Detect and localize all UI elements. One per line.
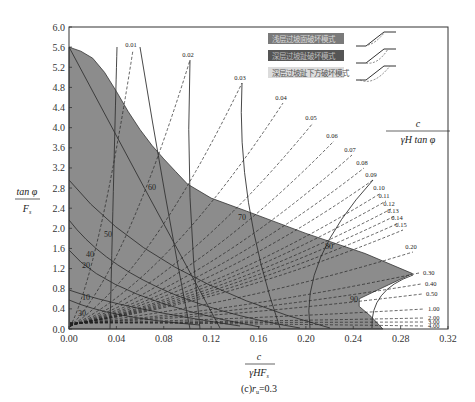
contour-value-label: 0.20 [405, 243, 416, 250]
legend-item: 浅层过坡面破坏模式 [268, 32, 396, 46]
angle-label: 30 [78, 309, 86, 318]
x-tick-label: 0.24 [345, 333, 363, 344]
contour-value-label: 0.13 [387, 207, 398, 214]
contour-value-label: 0.02 [182, 51, 193, 58]
contour-value-label: 0.15 [395, 221, 406, 228]
contour-value-label: 0.06 [326, 132, 338, 139]
contour-family-label: c γH tan φ [386, 118, 450, 145]
y-tick-label: 0.0 [53, 324, 66, 335]
svg-text:c: c [416, 118, 421, 129]
legend-label: 深层过坡趾破坏模式 [272, 51, 336, 61]
svg-text:c: c [257, 351, 262, 362]
contour-value-label: 0.11 [378, 192, 389, 199]
contour-value-label: 0.14 [391, 214, 403, 221]
svg-text:γH tan φ: γH tan φ [401, 134, 436, 145]
svg-text:Fs: Fs [22, 203, 32, 215]
y-tick-label: 0.8 [53, 283, 66, 294]
contour-value-label: 0.05 [305, 114, 316, 121]
contour-value-label: 1.00 [428, 305, 439, 312]
x-tick-label: 0.04 [108, 333, 126, 344]
y-tick-label: 1.6 [53, 243, 66, 254]
contour-value-label: 0.30 [423, 269, 434, 276]
contour-value-label: 0.01 [125, 41, 136, 48]
angle-label: 50 [104, 230, 112, 239]
y-tick-label: 2.4 [53, 203, 66, 214]
slope-icon [356, 49, 396, 63]
y-tick-label: 0.4 [53, 303, 66, 314]
contour-value-label: 0.10 [373, 184, 384, 191]
contour-value-label: 0.03 [234, 74, 245, 81]
svg-text:tan φ: tan φ [17, 186, 38, 197]
angle-label: 70 [238, 213, 246, 222]
angle-label: 60 [148, 183, 156, 192]
x-tick-label: 0.20 [297, 333, 315, 344]
design-chart: 0.000.040.080.120.160.200.240.280.32 0.0… [0, 0, 475, 402]
angle-label: 80 [325, 242, 333, 251]
angle-label: 20 [82, 261, 90, 270]
contour-value-label: 0.40 [425, 280, 436, 287]
legend-label: 浅层过坡面破坏模式 [272, 34, 336, 44]
contour-value-label: 0.08 [356, 159, 367, 166]
x-tick-label: 0.08 [155, 333, 173, 344]
angle-label: 10 [82, 293, 90, 302]
y-tick-label: 2.0 [53, 223, 66, 234]
y-tick-label: 2.8 [53, 183, 66, 194]
contour-value-label: 0.07 [344, 146, 356, 153]
angle-label: 40 [86, 250, 94, 259]
slip-surface-icon [366, 49, 388, 63]
angle-label: 90 [350, 295, 358, 304]
y-tick-label: 5.6 [53, 42, 66, 53]
y-tick-label: 6.0 [53, 22, 66, 33]
contour-value-label: 0.09 [365, 171, 376, 178]
x-tick-label: 0.12 [202, 333, 220, 344]
x-tick-label: 0.16 [250, 333, 268, 344]
y-axis-label: tan φ Fs [15, 186, 40, 215]
legend: 浅层过坡面破坏模式深层过坡趾破坏模式深层过坡趾下方破坏模式 [268, 32, 396, 81]
x-tick-label: 0.28 [392, 333, 410, 344]
slip-surface-icon [360, 66, 390, 81]
y-tick-label: 3.2 [53, 162, 66, 173]
y-tick-label: 4.4 [53, 102, 66, 113]
slope-icon [356, 32, 396, 46]
y-tick-label: 4.0 [53, 122, 66, 133]
slope-icon [356, 66, 396, 80]
contour-value-label: 0.12 [383, 200, 394, 207]
figure-caption: (c)ru=0.3 [241, 383, 277, 395]
legend-item: 深层过坡趾下方破坏模式 [268, 66, 396, 81]
y-tick-label: 4.8 [53, 82, 66, 93]
x-tick-label: 0.00 [60, 333, 78, 344]
x-tick-label: 0.32 [439, 333, 457, 344]
contour-value-label: 4.00 [428, 322, 439, 329]
legend-item: 深层过坡趾破坏模式 [268, 49, 396, 63]
contour-value-label: 0.50 [426, 290, 437, 297]
legend-label: 深层过坡趾下方破坏模式 [272, 68, 350, 78]
x-axis-label: c γHFs [245, 351, 275, 379]
contour-value-label: 0.04 [275, 94, 287, 101]
y-tick-label: 3.6 [53, 142, 66, 153]
y-tick-label: 1.2 [53, 263, 66, 274]
y-tick-label: 5.2 [53, 62, 66, 73]
svg-text:γHFs: γHFs [249, 367, 269, 379]
